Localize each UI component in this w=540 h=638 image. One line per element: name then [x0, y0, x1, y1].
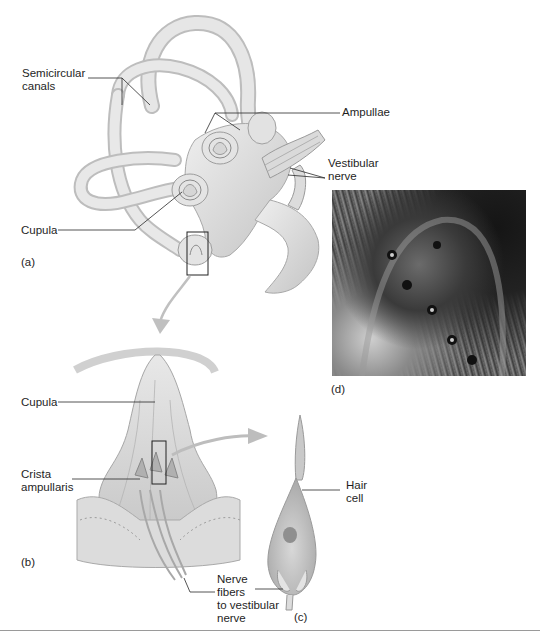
sem-micrograph-texture	[332, 190, 526, 376]
label-cupula-b: Cupula	[21, 396, 57, 409]
panel-letter-a: (a)	[21, 256, 35, 268]
label-vestibular-nerve: Vestibular nerve	[328, 157, 379, 183]
panel-letter-d: (d)	[331, 383, 345, 395]
label-ampullae: Ampullae	[342, 106, 390, 119]
label-crista-ampullaris: Crista ampullaris	[21, 468, 73, 494]
panel-letter-b: (b)	[21, 556, 35, 568]
crista-ampullaris-drawing	[75, 351, 268, 580]
label-nerve-fibers: Nerve fibers to vestibular nerve	[217, 573, 279, 625]
label-cupula-a: Cupula	[21, 224, 57, 237]
label-hair-cell: Hair cell	[346, 479, 367, 505]
bottom-divider	[0, 630, 540, 631]
label-semicircular-canals: Semicircular canals	[22, 67, 85, 93]
semicircular-canals-drawing	[81, 23, 325, 334]
panel-letter-c: (c)	[294, 611, 307, 623]
